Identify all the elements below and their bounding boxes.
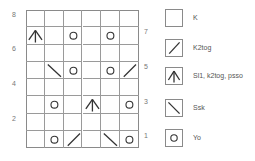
chart-cell: [101, 27, 120, 44]
chart-cell: [101, 62, 120, 79]
chart-cell: [83, 79, 102, 96]
chart-cell: [101, 96, 120, 113]
chart-cell: [64, 45, 83, 62]
chart-cell: [120, 62, 139, 79]
yarn-over-icon: [64, 27, 83, 44]
row-label-4: 4: [9, 80, 19, 87]
chart-cell: [101, 10, 120, 27]
chart-cell: [120, 96, 139, 113]
chart-cell: [45, 62, 64, 79]
legend-k2tog-label: K2tog: [193, 44, 211, 51]
row-label-6: 6: [9, 45, 19, 52]
k2tog-icon: [166, 40, 182, 56]
ssk-icon: [45, 62, 64, 79]
legend-k2tog-box: [165, 39, 183, 57]
chart-cell: [26, 96, 45, 113]
chart-cell: [45, 10, 64, 27]
legend-ssk-label: Ssk: [193, 104, 205, 111]
chart-cell: [120, 45, 139, 62]
chart-cell: [120, 114, 139, 131]
chart-cell: [45, 114, 64, 131]
knitting-chart-grid: [26, 10, 139, 148]
legend-sl1k2togpsso-label: Sl1, k2tog, psso: [193, 72, 243, 79]
chart-cell: [45, 79, 64, 96]
chart-cell: [120, 27, 139, 44]
yarn-over-icon: [64, 62, 83, 79]
legend-sl1k2togpsso-box: [165, 67, 183, 85]
legend-k-label: K: [193, 14, 198, 21]
chart-cell: [64, 27, 83, 44]
legend-yo-box: [165, 129, 183, 147]
chart-cell: [83, 27, 102, 44]
sl1-k2tog-psso-icon: [166, 68, 182, 84]
chart-cell: [64, 79, 83, 96]
chart-cell: [83, 62, 102, 79]
chart-cell: [64, 10, 83, 27]
yarn-over-icon: [166, 130, 182, 146]
yarn-over-icon: [45, 131, 64, 148]
ssk-icon: [101, 131, 120, 148]
yarn-over-icon: [101, 62, 120, 79]
sl1-k2tog-psso-icon: [26, 27, 45, 44]
row-label-7: 7: [141, 28, 151, 35]
yarn-over-icon: [101, 27, 120, 44]
legend-ssk-box: [165, 99, 183, 117]
chart-cell: [83, 114, 102, 131]
chart-cell: [101, 45, 120, 62]
chart-cell: [83, 10, 102, 27]
chart-cell: [120, 10, 139, 27]
chart-cell: [83, 96, 102, 113]
chart-cell: [120, 79, 139, 96]
row-label-8: 8: [9, 11, 19, 18]
chart-cell: [64, 131, 83, 148]
row-label-2: 2: [9, 115, 19, 122]
chart-cell: [45, 45, 64, 62]
chart-cell: [64, 114, 83, 131]
chart-cell: [83, 131, 102, 148]
row-label-1: 1: [141, 132, 151, 139]
chart-cell: [26, 27, 45, 44]
chart-cell: [64, 62, 83, 79]
legend-yo-label: Yo: [193, 134, 201, 141]
chart-cell: [101, 114, 120, 131]
k2tog-icon: [120, 62, 139, 79]
chart-cell: [64, 96, 83, 113]
sl1-k2tog-psso-icon: [83, 96, 102, 113]
chart-cell: [83, 45, 102, 62]
chart-cell: [26, 114, 45, 131]
chart-cell: [101, 131, 120, 148]
ssk-icon: [166, 100, 182, 116]
yarn-over-icon: [120, 96, 139, 113]
yarn-over-icon: [45, 96, 64, 113]
chart-cell: [26, 79, 45, 96]
chart-cell: [120, 131, 139, 148]
chart-cell: [45, 96, 64, 113]
yarn-over-icon: [120, 131, 139, 148]
row-label-3: 3: [141, 98, 151, 105]
chart-cell: [26, 131, 45, 148]
chart-cell: [101, 79, 120, 96]
chart-cell: [26, 10, 45, 27]
chart-cell: [26, 45, 45, 62]
chart-cell: [45, 131, 64, 148]
row-label-5: 5: [141, 63, 151, 70]
chart-cell: [26, 62, 45, 79]
chart-cell: [45, 27, 64, 44]
k2tog-icon: [64, 131, 83, 148]
legend-k-box: [165, 9, 183, 27]
